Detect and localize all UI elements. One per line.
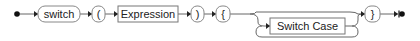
- arrow-icon: [266, 23, 270, 29]
- branch-out-track: [345, 14, 362, 26]
- terminal-label: }: [371, 8, 375, 20]
- terminal-label: switch: [44, 8, 75, 20]
- terminal-label: (: [97, 8, 101, 20]
- nonterminal-label: Expression: [121, 8, 175, 20]
- nonterminal-label: Switch Case: [277, 20, 338, 32]
- terminal-close-brace: }: [365, 6, 380, 22]
- start-dot-icon: [14, 11, 20, 17]
- arrow-icon: [187, 11, 191, 17]
- arrow-icon: [394, 11, 398, 17]
- terminal-open-paren: (: [92, 6, 105, 22]
- nonterminal-switch-case: Switch Case: [270, 18, 345, 34]
- terminal-label: {: [221, 8, 225, 20]
- nonterminal-expression: Expression: [118, 6, 178, 22]
- terminal-open-brace: {: [216, 6, 230, 22]
- railroad-diagram: switch ( Expression ) { Switch Case }: [0, 0, 420, 41]
- arrow-icon: [114, 11, 118, 17]
- end-dot-icon: [399, 11, 405, 17]
- terminal-label: ): [196, 8, 200, 20]
- arrow-icon: [361, 11, 365, 17]
- terminal-close-paren: ): [191, 6, 204, 22]
- arrow-icon: [212, 11, 216, 17]
- terminal-switch: switch: [38, 6, 80, 22]
- arrow-icon: [88, 11, 92, 17]
- arrow-icon: [34, 11, 38, 17]
